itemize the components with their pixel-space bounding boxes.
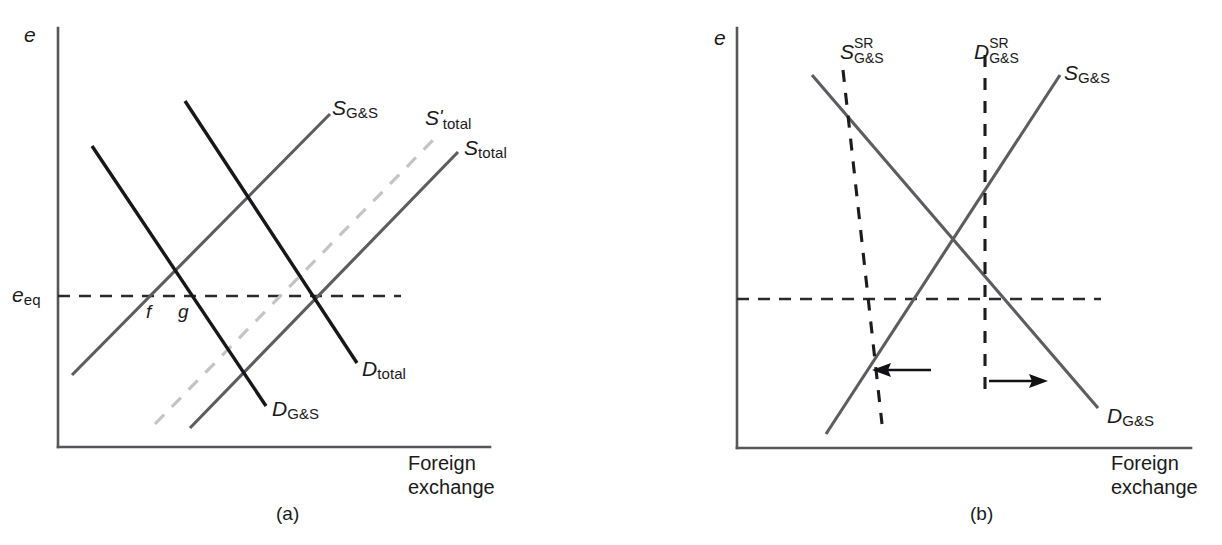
curve-label-d-sr-gs-b-sub: G&S: [989, 51, 1019, 66]
curve-label-s-gs-b: SG&S: [1064, 62, 1110, 85]
curve-label-s-sr-gs-b-base: S: [840, 40, 854, 63]
panel-a-caption: (a): [276, 504, 299, 523]
curve-label-d-gs-b-sub: G&S: [1122, 412, 1154, 429]
curve-label-s-sr-gs-b-sub: G&S: [854, 51, 884, 66]
x-axis-label-b-line2: exchange: [1111, 476, 1198, 500]
curve-label-d-total-a-base: D: [362, 357, 377, 380]
curve-label-s-gs-b-sub: G&S: [1078, 69, 1110, 86]
curve-label-s-gs-b-base: S: [1064, 61, 1078, 84]
shift-left-arrow: [872, 363, 931, 377]
curve-label-d-gs-a-base: D: [272, 397, 287, 420]
curve-label-s-total-a: Stotal: [464, 137, 507, 160]
x-axis-label-a: Foreign exchange: [408, 452, 495, 499]
point-label-g: g: [178, 302, 189, 321]
curve-s-gs-a: [72, 114, 330, 375]
curve-label-d-gs-a: DG&S: [272, 398, 319, 421]
curve-label-s-sr-gs-b-supsub: SRG&S: [854, 36, 884, 65]
curve-label-s-gs-a-sub: G&S: [346, 104, 378, 121]
panel-a: e eeq f g SG&S S'total Stotal Dtotal DG&…: [0, 0, 611, 545]
equilibrium-label-sub-a: eq: [24, 291, 41, 308]
curve-label-d-sr-gs-b: DSRG&S: [974, 36, 1019, 65]
curve-label-s-gs-a: SG&S: [332, 97, 378, 120]
curve-s-total-a: [190, 152, 458, 428]
curve-label-s-total-prime-a: S'total: [425, 107, 472, 131]
curve-label-d-gs-b-base: D: [1107, 404, 1122, 427]
panel-b-caption: (b): [970, 504, 993, 523]
shift-right-arrow: [989, 374, 1048, 388]
curve-label-s-sr-gs-b: SSRG&S: [840, 36, 884, 65]
curve-label-d-total-a: Dtotal: [362, 358, 406, 381]
point-label-f: f: [146, 302, 151, 321]
curve-label-s-sr-gs-b-sup: SR: [854, 36, 884, 51]
equilibrium-label-base-a: e: [12, 283, 24, 306]
curve-d-gs-b: [812, 75, 1098, 408]
curve-label-d-sr-gs-b-supsub: SRG&S: [989, 36, 1019, 65]
panel-b: e SSRG&S DSRG&S SG&S DG&S Foreign exchan…: [611, 0, 1222, 545]
curve-label-s-total-prime-a-sub: total: [443, 115, 472, 132]
figure-root: e eeq f g SG&S S'total Stotal Dtotal DG&…: [0, 0, 1222, 545]
x-axis-label-a-line2: exchange: [408, 476, 495, 500]
curve-label-d-gs-b: DG&S: [1107, 405, 1154, 428]
y-axis-label-b: e: [714, 27, 726, 48]
curve-label-s-total-prime-a-base: S: [425, 106, 439, 129]
x-axis-label-b-line1: Foreign: [1111, 452, 1198, 476]
equilibrium-label-a: eeq: [12, 284, 41, 307]
curve-label-d-sr-gs-b-base: D: [974, 40, 989, 63]
curve-label-d-total-a-sub: total: [377, 365, 406, 382]
curve-label-s-gs-a-base: S: [332, 96, 346, 119]
panel-a-plot: [0, 0, 611, 545]
curve-label-d-gs-a-sub: G&S: [287, 405, 319, 422]
curve-label-d-sr-gs-b-sup: SR: [989, 36, 1019, 51]
curve-label-s-total-a-base: S: [464, 136, 478, 159]
curve-label-s-total-a-sub: total: [478, 144, 507, 161]
y-axis-label-a: e: [24, 24, 36, 45]
x-axis-label-b: Foreign exchange: [1111, 452, 1198, 499]
x-axis-label-a-line1: Foreign: [408, 452, 495, 476]
